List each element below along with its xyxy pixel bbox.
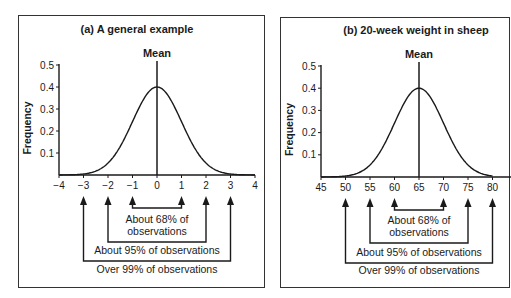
arrow-head-icon [80, 196, 87, 205]
arrow-head-icon [465, 198, 472, 207]
x-tick-label: 3 [228, 180, 234, 191]
x-tick-label: 75 [462, 182, 474, 193]
y-axis-label: Frequency [283, 103, 295, 156]
arrow-head-icon [342, 198, 349, 207]
range-annotation-text: observations [127, 225, 187, 237]
chart-title: (a) A general example [81, 23, 194, 35]
y-tick-label: 0.3 [40, 104, 54, 115]
chart-title: (b) 20-week weight in sheep [343, 24, 489, 36]
x-tick-label: −2 [102, 180, 114, 191]
x-tick-label: −3 [78, 180, 90, 191]
range-annotation-text: observations [389, 226, 449, 238]
arrow-head-icon [227, 196, 234, 205]
chart-panel-sheep-weight: (b) 20-week weight in sheepFrequency0.10… [280, 17, 510, 288]
chart-panel-general-example: (a) A general exampleFrequency0.10.20.30… [18, 15, 265, 288]
x-tick-label: 2 [203, 180, 209, 191]
arrow-head-icon [178, 196, 185, 205]
range-annotation-text: Over 99% of observations [97, 263, 218, 275]
y-tick-label: 0.2 [40, 126, 54, 137]
normal-curve-chart-b: (b) 20-week weight in sheepFrequency0.10… [281, 18, 511, 289]
y-tick-label: 0.1 [302, 149, 316, 160]
y-tick-label: 0.3 [302, 105, 316, 116]
y-tick-label: 0.4 [302, 83, 316, 94]
x-tick-label: 4 [252, 180, 258, 191]
x-tick-label: 55 [364, 182, 376, 193]
range-annotation-text: Over 99% of observations [359, 264, 480, 276]
y-tick-label: 0.1 [40, 148, 54, 159]
x-tick-label: 65 [413, 182, 425, 193]
range-annotation-text: About 68% of [387, 214, 450, 226]
arrow-head-icon [105, 196, 112, 205]
mean-label: Mean [405, 48, 433, 60]
y-axis-label: Frequency [21, 101, 33, 154]
range-annotation-text: About 95% of observations [356, 246, 482, 258]
x-tick-label: −1 [127, 180, 139, 191]
x-tick-label: 50 [340, 182, 352, 193]
x-tick-label: 60 [389, 182, 401, 193]
range-annotation-text: About 95% of observations [94, 244, 220, 256]
arrow-head-icon [440, 198, 447, 207]
range-annotation-text: About 68% of [125, 213, 188, 225]
x-tick-label: 45 [315, 182, 327, 193]
y-tick-label: 0.4 [40, 82, 54, 93]
x-tick-label: 70 [438, 182, 450, 193]
x-tick-label: 80 [487, 182, 499, 193]
x-tick-label: 0 [154, 180, 160, 191]
x-tick-label: −4 [53, 180, 65, 191]
range-bracket [395, 204, 444, 210]
y-tick-label: 0.2 [302, 127, 316, 138]
arrow-head-icon [129, 196, 136, 205]
normal-curve-chart-a: (a) A general exampleFrequency0.10.20.30… [19, 16, 266, 289]
arrow-head-icon [203, 196, 210, 205]
arrow-head-icon [367, 198, 374, 207]
arrow-head-icon [489, 198, 496, 207]
arrow-head-icon [391, 198, 398, 207]
mean-label: Mean [143, 47, 171, 59]
y-tick-label: 0.5 [40, 60, 54, 71]
range-bracket [133, 202, 182, 208]
y-tick-label: 0.5 [302, 61, 316, 72]
normal-curve-line [321, 88, 493, 177]
x-tick-label: 1 [179, 180, 185, 191]
